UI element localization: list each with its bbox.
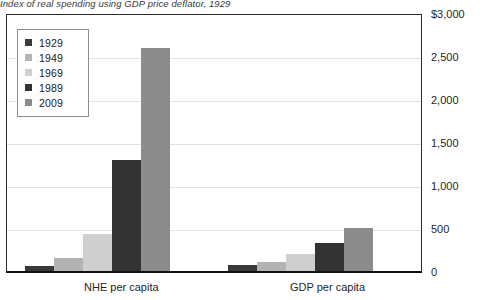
chart-caption: Index of real spending using GDP price d… [0,0,230,9]
legend-swatch-icon [25,69,32,76]
legend-item: 1989 [25,80,82,95]
bar [286,254,315,271]
y-axis-tick-label: $3,000 [431,8,465,20]
legend-item-label: 1989 [39,82,63,94]
y-axis-tick-label: 0 [431,266,437,278]
legend-swatch-icon [25,54,32,61]
legend-item: 1929 [25,35,82,50]
bar [257,262,286,271]
x-axis-label-gdp: GDP per capita [290,281,365,293]
y-axis: $3,0002,5002,0001,5001,0005000 [424,0,489,300]
legend-item-label: 1949 [39,52,63,64]
legend-swatch-icon [25,99,32,106]
bar [83,234,112,271]
legend-item-label: 1929 [39,37,63,49]
legend-swatch-icon [25,39,32,46]
bar [315,243,344,271]
legend-swatch-icon [25,84,32,91]
bar [112,160,141,271]
x-axis-baseline [6,271,422,273]
legend-item: 1969 [25,65,82,80]
legend-item-label: 1969 [39,67,63,79]
y-axis-tick-label: 2,000 [431,94,459,106]
bar [54,258,83,271]
y-axis-tick-label: 2,500 [431,51,459,63]
bar [344,228,373,271]
y-axis-tick-label: 500 [431,223,449,235]
y-axis-tick-label: 1,500 [431,137,459,149]
legend-item: 2009 [25,95,82,110]
bar-group [218,15,421,271]
y-axis-tick-label: 1,000 [431,180,459,192]
bar [141,48,170,271]
legend-item: 1949 [25,50,82,65]
legend-item-label: 2009 [39,97,63,109]
x-axis-label-nhe: NHE per capita [84,281,159,293]
chart-legend: 19291949196919892009 [17,29,89,117]
